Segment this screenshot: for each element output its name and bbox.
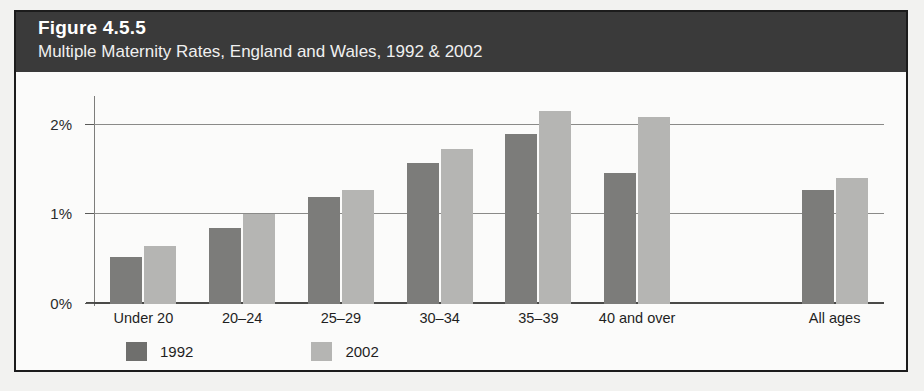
figure-header-band: Figure 4.5.5 Multiple Maternity Rates, E…: [16, 12, 906, 72]
figure-card: Figure 4.5.5 Multiple Maternity Rates, E…: [14, 10, 908, 372]
x-axis-label-2: 25–29: [321, 310, 361, 326]
legend-item-2002: 2002: [311, 342, 378, 361]
gridline-1: [94, 213, 884, 214]
x-axis-line: [86, 302, 884, 304]
bar-2002-30–34: [441, 149, 473, 304]
bar-1992-30–34: [407, 163, 439, 305]
figure-root: Figure 4.5.5 Multiple Maternity Rates, E…: [0, 0, 924, 391]
bar-2002-20–24: [243, 214, 275, 304]
plot-canvas: 0%1%2% Under 2020–2425–2930–3435–3940 an…: [94, 98, 884, 304]
x-axis-label-5: 40 and over: [599, 310, 676, 326]
x-axis-label-3: 30–34: [419, 310, 459, 326]
legend-label-1992: 1992: [160, 343, 193, 360]
legend-swatch-1992: [126, 342, 147, 361]
x-axis-label-1: 20–24: [222, 310, 262, 326]
x-axis-label-4: 35–39: [518, 310, 558, 326]
chart-legend: 1992 2002: [126, 342, 379, 361]
figure-caption: Multiple Maternity Rates, England and Wa…: [38, 40, 896, 64]
bar-2002-35–39: [539, 111, 571, 304]
gridline-2: [94, 124, 884, 125]
bar-2002-40 and over: [638, 117, 670, 304]
bar-1992-20–24: [209, 228, 241, 304]
x-axis-label-7: All ages: [809, 310, 861, 326]
chart-area: 0%1%2% Under 2020–2425–2930–3435–3940 an…: [16, 72, 906, 370]
bar-1992-40 and over: [604, 173, 636, 304]
bar-1992-Under 20: [110, 257, 142, 304]
y-tick-1: 1%: [85, 213, 94, 214]
bar-2002-Under 20: [144, 246, 176, 304]
bar-1992-25–29: [308, 197, 340, 304]
y-tick-label-1: 1%: [50, 205, 72, 222]
y-tick-label-0: 0%: [50, 295, 72, 312]
y-tick-0: 0%: [85, 303, 94, 304]
y-tick-2: 2%: [85, 124, 94, 125]
y-axis-line: [94, 96, 95, 306]
legend-label-2002: 2002: [345, 343, 378, 360]
bar-1992-35–39: [505, 134, 537, 304]
figure-number-label: Figure 4.5.5: [38, 16, 896, 40]
x-axis-label-0: Under 20: [114, 310, 174, 326]
figure-header-text: Figure 4.5.5 Multiple Maternity Rates, E…: [38, 16, 896, 64]
bar-2002-All ages: [836, 178, 868, 304]
bar-2002-25–29: [342, 190, 374, 304]
legend-swatch-2002: [311, 342, 332, 361]
y-tick-label-2: 2%: [50, 115, 72, 132]
legend-item-1992: 1992: [126, 342, 193, 361]
bar-1992-All ages: [802, 190, 834, 304]
